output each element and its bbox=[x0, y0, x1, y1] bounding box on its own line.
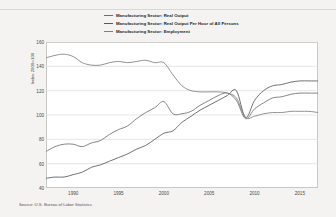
y-tick-label: 100 bbox=[22, 113, 44, 118]
y-axis-ticks: 160140120100806040 bbox=[18, 42, 44, 188]
plot-svg bbox=[46, 42, 318, 188]
y-tick-label: 40 bbox=[22, 186, 44, 191]
source-note: Source: U.S. Bureau of Labor Statistics bbox=[19, 202, 92, 207]
x-tick-label: 2005 bbox=[204, 191, 214, 196]
y-tick-label: 80 bbox=[22, 137, 44, 142]
x-axis-ticks: 199019952000200520102015 bbox=[46, 191, 318, 201]
x-tick-label: 1990 bbox=[68, 191, 78, 196]
chart-page: Manufacturing Sector: Real Output Manufa… bbox=[0, 0, 336, 217]
legend-label-real-output: Manufacturing Sector: Real Output bbox=[116, 13, 188, 19]
figure-container: Manufacturing Sector: Real Output Manufa… bbox=[0, 10, 336, 217]
x-tick-label: 2015 bbox=[295, 191, 305, 196]
x-tick-label: 2000 bbox=[159, 191, 169, 196]
legend-item-real-output: Manufacturing Sector: Real Output bbox=[104, 12, 334, 19]
legend-item-employment: Manufacturing Sector: Employment bbox=[104, 28, 334, 35]
x-tick-label: 2010 bbox=[249, 191, 259, 196]
x-tick-label: 1995 bbox=[113, 191, 123, 196]
y-tick-label: 140 bbox=[22, 64, 44, 69]
legend-label-output-per-hour: Manufacturing Sector: Real Output Per Ho… bbox=[116, 21, 239, 27]
y-tick-label: 120 bbox=[22, 88, 44, 93]
legend-label-employment: Manufacturing Sector: Employment bbox=[116, 29, 190, 35]
chart-legend: Manufacturing Sector: Real Output Manufa… bbox=[104, 12, 334, 36]
y-tick-label: 160 bbox=[22, 40, 44, 45]
legend-swatch-employment bbox=[104, 31, 113, 32]
legend-swatch-output-per-hour bbox=[104, 23, 113, 24]
plot-area bbox=[46, 42, 318, 188]
legend-item-output-per-hour: Manufacturing Sector: Real Output Per Ho… bbox=[104, 20, 334, 27]
y-tick-label: 60 bbox=[22, 161, 44, 166]
series-line-2 bbox=[46, 54, 318, 118]
legend-swatch-real-output bbox=[104, 15, 113, 16]
